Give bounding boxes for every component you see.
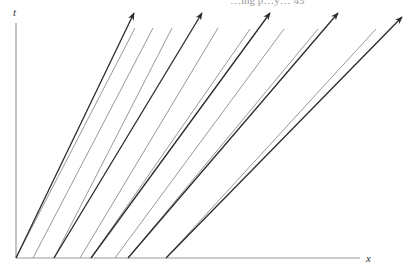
signal-lines <box>16 28 376 258</box>
signal-line <box>128 29 318 258</box>
worldline-arrow <box>166 17 402 258</box>
x-axis-label: x <box>365 252 371 264</box>
worldline-arrows <box>16 13 402 258</box>
signal-line <box>166 29 376 258</box>
top-cut-text: …ing p…y… 45 <box>230 0 305 6</box>
t-axis-label: t <box>13 6 17 18</box>
signal-line <box>33 28 153 258</box>
spacetime-diagram: …ing p…y… 45 t x <box>0 0 408 269</box>
worldline-arrow <box>128 13 338 258</box>
